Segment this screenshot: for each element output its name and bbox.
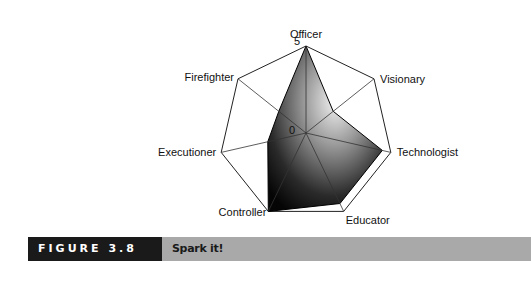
radar-chart: OfficerVisionaryTechnologistEducatorCont…: [0, 0, 531, 235]
axis-label-educator: Educator: [346, 214, 390, 226]
figure-label: FIGURE 3.8: [28, 237, 162, 261]
series-area-0: [268, 46, 383, 211]
axis-label-technologist: Technologist: [397, 146, 458, 158]
tick-label-max: 5: [294, 35, 300, 47]
axis-label-controller: Controller: [219, 206, 267, 218]
tick-label-min: 0: [289, 124, 295, 136]
axis-label-firefighter: Firefighter: [184, 71, 234, 83]
axis-label-executioner: Executioner: [158, 146, 216, 158]
figure-title: Spark it!: [172, 237, 223, 261]
axis-label-visionary: Visionary: [380, 73, 426, 85]
